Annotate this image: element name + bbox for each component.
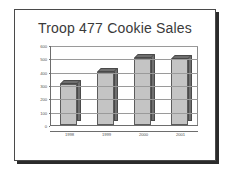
- y-axis-tick-label: 200: [40, 97, 47, 102]
- y-axis-tick-label: 600: [40, 44, 47, 49]
- x-axis-tick-label: 2001: [176, 132, 185, 137]
- chart-title: Troop 477 Cookie Sales: [15, 20, 215, 36]
- y-axis-tick: [49, 59, 52, 60]
- x-axis-tick-label: 2000: [139, 132, 148, 137]
- y-axis-tick: [49, 113, 52, 114]
- bar-front-face: [60, 84, 77, 125]
- x-axis-tick-label: 1999: [102, 132, 111, 137]
- y-axis-tick-label: 500: [40, 57, 47, 62]
- plot-area-wrapper: 0100200300400500600 1998199920002001: [31, 46, 203, 138]
- bar-front-face: [97, 72, 114, 125]
- bar[interactable]: [134, 58, 151, 125]
- y-axis-tick-label: 100: [40, 110, 47, 115]
- y-axis-tick: [49, 99, 52, 100]
- y-axis-labels: 0100200300400500600: [31, 46, 48, 126]
- slide-canvas: Troop 477 Cookie Sales 01002003004005006…: [0, 0, 230, 175]
- y-axis-tick: [49, 46, 52, 47]
- bar-side-face: [188, 55, 192, 121]
- bar-front-face: [134, 58, 151, 125]
- bar-side-face: [151, 54, 155, 121]
- gridline: [51, 113, 198, 114]
- y-axis-tick-label: 0: [45, 124, 47, 129]
- bar-front-face: [171, 59, 188, 125]
- plot-area: [50, 46, 198, 126]
- bar[interactable]: [60, 84, 77, 125]
- x-axis-tick-label: 1998: [65, 132, 74, 137]
- gridline: [51, 73, 198, 74]
- gridline: [51, 86, 198, 87]
- x-axis-labels: 1998199920002001: [50, 132, 198, 142]
- gridline: [51, 99, 198, 100]
- y-axis-tick-label: 300: [40, 84, 47, 89]
- y-axis-tick: [49, 86, 52, 87]
- bar[interactable]: [171, 59, 188, 125]
- y-axis-tick-label: 400: [40, 70, 47, 75]
- bar[interactable]: [97, 72, 114, 125]
- gridline: [51, 46, 198, 47]
- gridline: [51, 59, 198, 60]
- y-axis-tick: [49, 73, 52, 74]
- chart-frame: Troop 477 Cookie Sales 01002003004005006…: [14, 9, 216, 161]
